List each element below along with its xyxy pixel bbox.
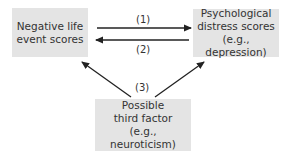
edge-label-3: (3) xyxy=(135,82,149,93)
node-text: event scores xyxy=(17,33,84,46)
arrow-3-left xyxy=(82,62,131,97)
psychological-distress-box: Psychological distress scores (e.g., dep… xyxy=(193,9,279,57)
node-text: (e.g., neuroticism) xyxy=(95,125,191,151)
node-text: distress scores xyxy=(197,20,275,33)
arrow-3-right xyxy=(155,62,204,97)
node-text: third factor xyxy=(114,112,173,125)
node-text: Psychological xyxy=(201,7,272,20)
negative-life-events-box: Negative life event scores xyxy=(12,8,88,57)
node-text: (e.g., depression) xyxy=(193,33,279,59)
edge-label-2: (2) xyxy=(136,44,150,55)
third-factor-box: Possible third factor (e.g., neuroticism… xyxy=(95,99,191,151)
node-text: Possible xyxy=(122,99,164,112)
edge-label-1: (1) xyxy=(136,14,150,25)
node-text: Negative life xyxy=(17,20,83,33)
